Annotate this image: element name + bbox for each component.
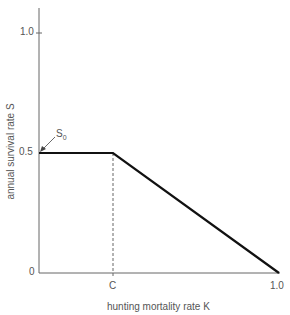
y-axis-label: annual survival rate S (5, 97, 16, 207)
s0-main: S (56, 128, 63, 139)
x-tick-label-1: 1.0 (270, 280, 284, 291)
chart-canvas (0, 0, 290, 315)
y-tick-label-0: 0 (29, 266, 35, 277)
survival-line (39, 153, 279, 273)
x-axis-label: hunting mortality rate K (107, 301, 210, 312)
y-tick-label-05: 0.5 (19, 146, 33, 157)
x-tick-label-c: C (109, 280, 116, 291)
y-tick-label-1: 1.0 (20, 26, 34, 37)
s0-annotation: S0 (56, 128, 67, 141)
s0-sub: 0 (63, 134, 67, 141)
